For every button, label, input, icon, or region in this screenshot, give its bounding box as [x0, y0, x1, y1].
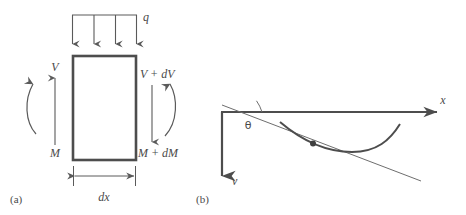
right-moment-curved-arrow: [165, 84, 175, 136]
dx-dimension-label: dx: [98, 190, 110, 204]
left-moment-curved-arrow: [27, 84, 36, 134]
moment-right-label: M + dM: [137, 146, 179, 160]
x-axis-label: x: [439, 93, 446, 107]
beam-element-rectangle: [73, 56, 136, 160]
distributed-load-arrows: [73, 15, 137, 44]
shear-right-label: V + dV: [140, 67, 176, 81]
tangency-point-marker: [310, 141, 316, 147]
tangent-line: [222, 105, 421, 181]
panel-a-tag: (a): [10, 193, 23, 206]
engineering-figure: q V M V + dV M + dM dx (a) x v: [0, 0, 466, 215]
v-axis-label: v: [232, 174, 238, 188]
deflection-curve: [280, 122, 400, 152]
moment-left-label: M: [49, 146, 61, 160]
shear-left-label: V: [51, 60, 60, 74]
panel-a-group: q V M V + dV M + dM dx (a): [10, 10, 179, 206]
panel-b-group: x v θ (b): [196, 93, 446, 206]
theta-angle-arc: [257, 101, 263, 112]
distributed-load-label: q: [143, 10, 149, 24]
panel-b-tag: (b): [196, 193, 209, 206]
theta-angle-label: θ: [245, 119, 252, 132]
figure-container: q V M V + dV M + dM dx (a) x v: [0, 0, 466, 215]
